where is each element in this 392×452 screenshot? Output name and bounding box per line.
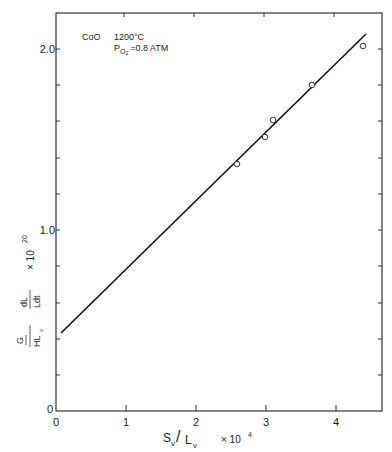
x-tick-label-1: 1 — [123, 416, 129, 428]
y-tick-label-2: 2.0 — [40, 43, 55, 55]
data-point — [262, 134, 268, 140]
annotation-temperature: 1200°C — [114, 32, 145, 42]
data-point — [234, 161, 240, 167]
svg-text:v: v — [193, 441, 197, 450]
y-axis-label: G HL v dL Ldt × 10 20 — [15, 235, 44, 347]
data-point — [360, 43, 366, 49]
x-tick-label-3: 3 — [263, 416, 269, 428]
x-ticks-bottom — [126, 405, 336, 411]
svg-text:× 10: × 10 — [221, 434, 241, 445]
y-tick-label-1: 1.0 — [40, 224, 55, 236]
y-tick-label-0: 0 — [47, 403, 53, 415]
svg-text:20: 20 — [21, 235, 28, 243]
svg-text:× 10: × 10 — [25, 250, 36, 270]
svg-text:v: v — [171, 439, 175, 448]
svg-text:S: S — [163, 431, 171, 445]
annotation-pressure: PO2=0.8 ATM — [114, 43, 168, 56]
svg-text:G: G — [15, 337, 25, 344]
x-tick-label-4: 4 — [333, 416, 339, 428]
chart: 0 1 2 3 4 0 1.0 2.0 CoO 1200°C PO2=0.8 A… — [0, 0, 392, 452]
data-point — [270, 117, 276, 123]
annotation-material: CoO — [82, 32, 101, 42]
x-axis-label: S v / L v × 10 4 — [163, 428, 252, 450]
data-point — [309, 82, 315, 88]
data-points — [234, 43, 366, 167]
svg-text:/: / — [176, 428, 181, 445]
x-tick-label-2: 2 — [193, 416, 199, 428]
fit-line — [61, 34, 366, 333]
plot-frame — [56, 13, 382, 411]
svg-text:dL: dL — [19, 297, 29, 307]
svg-text:Ldt: Ldt — [32, 295, 42, 308]
svg-text:4: 4 — [248, 431, 252, 438]
x-tick-label-0: 0 — [53, 416, 59, 428]
svg-text:L: L — [185, 433, 192, 447]
svg-text:HL: HL — [32, 335, 42, 347]
svg-text:v: v — [38, 329, 44, 332]
